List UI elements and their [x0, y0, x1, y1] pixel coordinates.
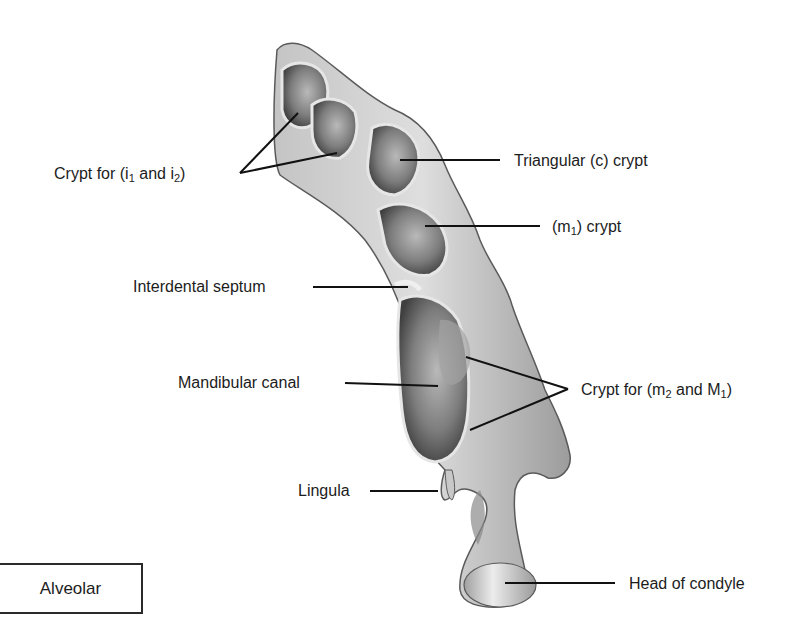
label-mandibular-canal: Mandibular canal — [178, 374, 300, 392]
label-m1-crypt: (m1) crypt — [552, 218, 621, 236]
view-title: Alveolar — [40, 579, 101, 599]
label-crypt-m2-M1: Crypt for (m2 and M1) — [581, 381, 732, 399]
bone-drawing — [0, 0, 803, 637]
label-triangular-crypt: Triangular (c) crypt — [514, 152, 648, 170]
label-interdental-septum: Interdental septum — [133, 278, 266, 296]
label-crypt-i1-i2: Crypt for (i1 and i2) — [54, 165, 185, 183]
view-title-box: Alveolar — [0, 563, 143, 614]
label-head-of-condyle: Head of condyle — [629, 575, 745, 593]
mandible-illustration: Crypt for (i1 and i2) Triangular (c) cry… — [0, 0, 803, 637]
label-lingula: Lingula — [298, 482, 350, 500]
